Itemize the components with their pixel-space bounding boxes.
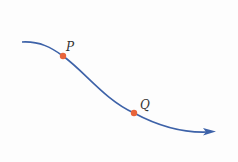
curve-svg <box>0 0 238 162</box>
curve-diagram: P Q <box>0 0 238 162</box>
label-p: P <box>66 40 74 54</box>
curve-path <box>22 42 208 132</box>
label-q: Q <box>140 98 150 112</box>
point-q <box>131 110 137 116</box>
